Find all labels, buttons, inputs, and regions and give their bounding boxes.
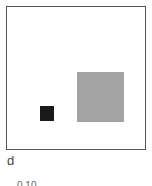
panel-label: d: [7, 154, 14, 168]
small-dark-square: [40, 106, 54, 121]
large-grey-square: [77, 72, 124, 122]
panel-sublabel: 0.10: [17, 181, 36, 186]
stimulus-frame: [6, 6, 146, 150]
